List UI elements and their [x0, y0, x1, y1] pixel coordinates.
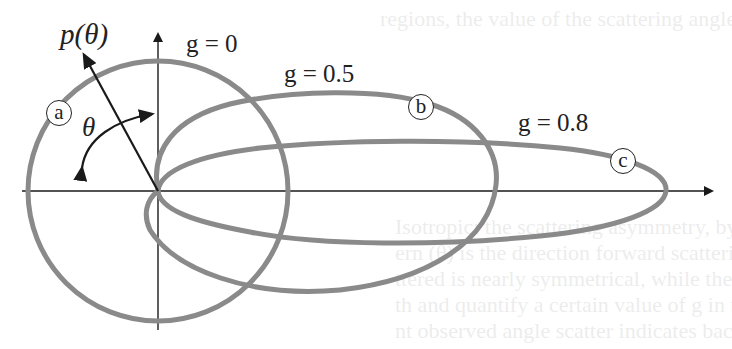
label-g08: g = 0.8 — [518, 109, 588, 137]
p-theta-label: p(θ) — [60, 18, 108, 51]
label-g0: g = 0 — [186, 30, 238, 58]
badge-a: a — [46, 100, 72, 126]
label-g05: g = 0.5 — [284, 60, 354, 88]
badge-c: c — [610, 148, 636, 174]
badge-b: b — [408, 94, 434, 120]
theta-label: θ — [82, 112, 95, 143]
curve-g08 — [158, 141, 666, 243]
phase-function-diagram — [0, 0, 732, 349]
curve-g05 — [146, 93, 496, 292]
